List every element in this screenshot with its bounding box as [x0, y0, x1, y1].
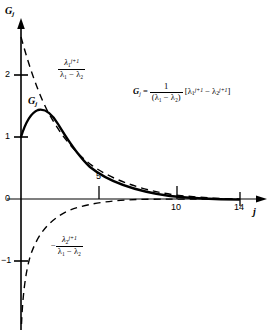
y-tick-label-1: 1 [5, 132, 10, 141]
main-formula-lhs-sub: j [139, 91, 141, 97]
annotation-lambda1-term: λ1j+1 λ₁ − λ₂ [58, 58, 85, 79]
x-tick-label-10: 10 [171, 203, 181, 212]
annotation-lambda2-denominator: λ₁ − λ₂ [56, 247, 83, 257]
curve-lambda2-dashed [22, 199, 241, 324]
y-axis-label: Gj [5, 6, 14, 18]
figure-container: Gj j 2 1 0 −1 5 10 14 Gj λ1j+1 λ₁ − λ₂ −… [0, 0, 279, 334]
annotation-lambda2-numerator-sup: j+1 [69, 235, 77, 241]
x-tick-label-5: 5 [96, 172, 101, 181]
main-formula-fraction-denominator: (λ₁ − λ₂) [150, 93, 183, 103]
y-tick-label-minus1: −1 [1, 256, 11, 265]
curve-gj-solid [21, 110, 239, 200]
plot-canvas [0, 0, 279, 334]
main-formula-bracket: [λ1j+1 − λ2j+1] [185, 86, 231, 96]
curve-label-gj: Gj [28, 96, 37, 108]
x-axis-label: j [253, 207, 256, 217]
main-formula: Gj = 1 (λ₁ − λ₂) [λ1j+1 − λ2j+1] [133, 82, 230, 103]
y-tick-label-2: 2 [5, 70, 10, 79]
y-axis [17, 18, 25, 330]
y-tick-label-0: 0 [5, 194, 10, 203]
main-formula-equals: = [143, 86, 148, 96]
annotation-lambda2-term: − λ2j+1 λ₁ − λ₂ [51, 235, 83, 256]
x-tick-label-14: 14 [234, 203, 244, 212]
annotation-lambda1-denominator: λ₁ − λ₂ [58, 70, 85, 80]
annotation-lambda1-numerator-sup: j+1 [71, 58, 79, 64]
